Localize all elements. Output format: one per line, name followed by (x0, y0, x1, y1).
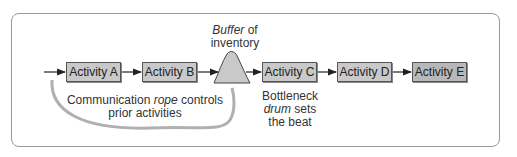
activity-b: Activity B (142, 62, 197, 82)
activity-e: Activity E (412, 62, 467, 82)
buffer-label: Buffer ofinventory (200, 24, 270, 50)
activity-a: Activity A (66, 62, 121, 82)
activity-c: Activity C (262, 62, 317, 82)
buffer-shape (214, 51, 250, 83)
rope-label: Communication rope controlsprior activit… (60, 94, 230, 120)
drum-label: Bottleneckdrum setsthe beat (255, 90, 325, 129)
activity-d: Activity D (337, 62, 392, 82)
